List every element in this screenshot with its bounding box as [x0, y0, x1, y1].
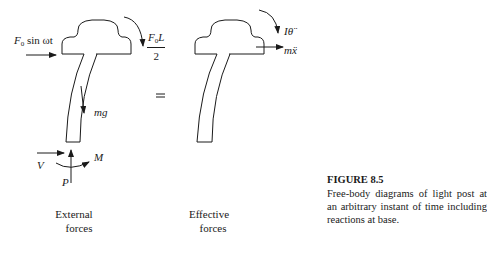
weight-label: mg	[94, 107, 107, 118]
inertia-force-label: mẍ	[284, 45, 297, 56]
equals-sign	[156, 94, 165, 97]
inertia-moment-arrow	[259, 10, 278, 33]
figure-caption-text: Free-body diagrams of light post at an a…	[327, 187, 487, 226]
shear-label: V	[37, 160, 44, 171]
figure-number: FIGURE 8.5	[327, 173, 487, 186]
num-symbol: F	[148, 31, 155, 43]
applied-force-symbol: F	[14, 34, 21, 46]
inertia-moment-label: Iθ̈	[284, 26, 293, 37]
num-rest: L	[158, 31, 164, 43]
caption-line-1: External	[52, 207, 96, 221]
caption-line-2: forces	[184, 221, 234, 235]
light-post-right	[195, 20, 264, 142]
applied-moment-fraction: F0L 2	[147, 32, 165, 62]
axial-label: P	[62, 177, 69, 188]
effective-forces-caption: Effective forces	[184, 207, 234, 235]
base-moment-arrow-M	[56, 162, 89, 167]
caption-line-1: Effective	[184, 207, 234, 221]
base-moment-label: M	[94, 152, 103, 163]
external-forces-caption: External forces	[52, 207, 96, 235]
applied-moment-arrow	[124, 17, 143, 46]
light-post-left	[62, 20, 131, 142]
applied-force-label: F0 sin ωt	[14, 35, 53, 48]
applied-force-rest: sin ωt	[24, 34, 53, 46]
caption-line-2: forces	[52, 221, 96, 235]
fraction-numerator: F0L	[147, 32, 165, 48]
fraction-denominator: 2	[147, 48, 165, 62]
figure-caption: FIGURE 8.5 Free-body diagrams of light p…	[327, 173, 487, 226]
